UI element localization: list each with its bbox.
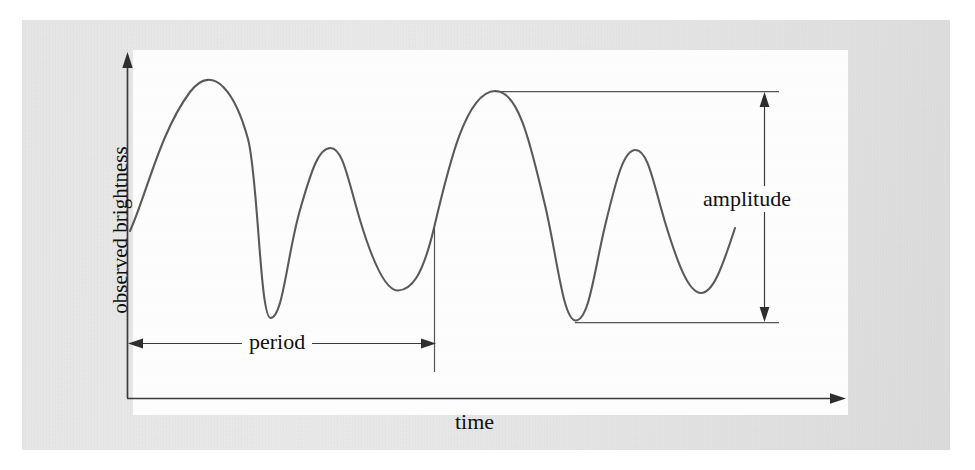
diagram-vector-overlay (0, 0, 975, 470)
light-curve (130, 80, 735, 321)
brightness-axis-label: observed brightness (108, 146, 133, 313)
period-label: period (242, 331, 312, 353)
amplitude-label: amplitude (697, 186, 797, 212)
time-axis (127, 393, 846, 403)
figure-root: observed brightness time period amplitud… (0, 0, 975, 470)
time-axis-label: time (455, 411, 494, 433)
brightness-axis-label-wrapper: observed brightness (108, 120, 132, 340)
